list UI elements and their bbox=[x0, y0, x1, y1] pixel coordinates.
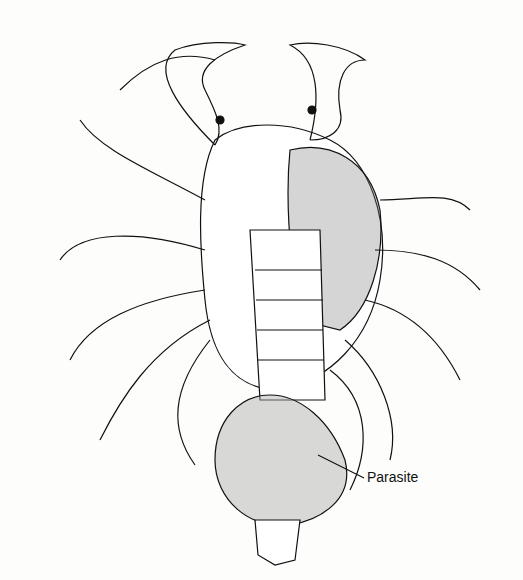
parasite-label: Parasite bbox=[367, 469, 418, 485]
crab-parasite-illustration: Parasite bbox=[0, 0, 523, 580]
crab-drawing bbox=[0, 0, 523, 580]
